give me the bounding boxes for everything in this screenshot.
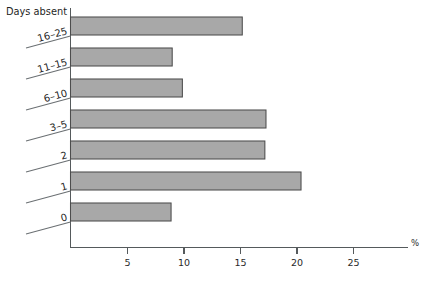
bar-series	[71, 17, 302, 221]
leader-line	[26, 222, 71, 234]
bar	[71, 172, 302, 190]
x-axis-unit-label: %	[411, 238, 419, 248]
chart-canvas: Days absent % 5 10 15 20 25	[0, 0, 434, 283]
category-label: 0	[60, 211, 69, 223]
bar	[71, 79, 183, 97]
category-label: 1	[60, 180, 69, 192]
bar	[71, 17, 243, 35]
bar-chart: Days absent % 5 10 15 20 25	[0, 0, 434, 283]
x-tick-label: 20	[291, 257, 303, 268]
x-tick-label: 15	[234, 257, 246, 268]
bar	[71, 203, 172, 221]
bar	[71, 110, 266, 128]
x-tick-label: 10	[178, 257, 190, 268]
bar	[71, 48, 173, 66]
category-label: 3–5	[49, 118, 69, 133]
leader-line	[26, 129, 71, 141]
category-label: 2	[60, 149, 69, 161]
x-axis-ticks: 5 10 15 20 25	[124, 248, 359, 269]
y-axis-title: Days absent	[6, 6, 67, 17]
x-tick-label: 25	[347, 257, 359, 268]
x-tick-label: 5	[124, 257, 130, 268]
category-labels: 16–25 11–15 6–10 3–5 2 1 0	[36, 25, 68, 223]
leader-line	[26, 160, 71, 172]
bar	[71, 141, 265, 159]
leader-line	[26, 191, 71, 203]
